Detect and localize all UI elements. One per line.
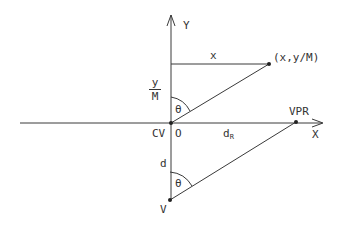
vpr-point [294, 120, 298, 124]
origin-point [169, 121, 173, 125]
y-over-m-denominator: M [149, 90, 161, 102]
o-label: O [175, 128, 182, 139]
d-r-main: d [223, 127, 230, 140]
theta-top-label: θ [175, 104, 182, 115]
vpr-label: VPR [289, 106, 309, 117]
projected-point-label: (x,y/M) [273, 52, 319, 63]
x-distance-label: x [210, 50, 217, 61]
viewpoint-label: V [160, 204, 167, 215]
origin-to-point-ray [171, 64, 269, 123]
y-over-m-numerator: y [149, 77, 161, 90]
projected-point [267, 62, 271, 66]
viewpoint-point [168, 198, 172, 202]
x-axis-label: X [312, 129, 319, 140]
y-axis-label: Y [183, 20, 190, 31]
cv-label: CV [152, 128, 165, 139]
y-over-m-label: y M [149, 77, 161, 102]
theta-bottom-label: θ [175, 178, 182, 189]
d-r-label: dR [223, 128, 234, 141]
d-r-subscript: R [230, 133, 234, 141]
d-label: d [160, 158, 167, 169]
